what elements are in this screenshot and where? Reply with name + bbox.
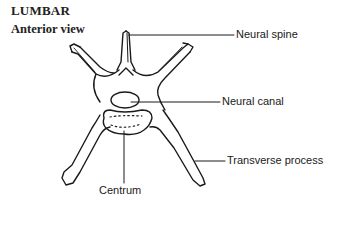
label-neural-canal: Neural canal bbox=[222, 95, 284, 107]
centrum-shape bbox=[103, 110, 152, 135]
label-centrum: Centrum bbox=[99, 184, 141, 196]
label-transverse-process: Transverse process bbox=[227, 154, 323, 166]
label-neural-spine: Neural spine bbox=[236, 28, 298, 40]
neural-canal-shape bbox=[111, 92, 139, 108]
